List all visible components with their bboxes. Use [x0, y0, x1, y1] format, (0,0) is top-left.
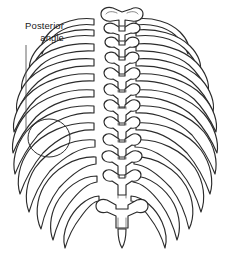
posterior-angle-label: Posterior angle [4, 20, 64, 43]
label-line-2: angle [4, 32, 64, 44]
ribs-left-group [13, 19, 99, 248]
anatomical-figure: Posterior angle [0, 0, 230, 259]
spinous-process-tip [118, 229, 126, 248]
vertebra-t12 [96, 199, 148, 228]
ribs-right-group [131, 19, 217, 248]
label-line-1: Posterior [4, 20, 64, 32]
